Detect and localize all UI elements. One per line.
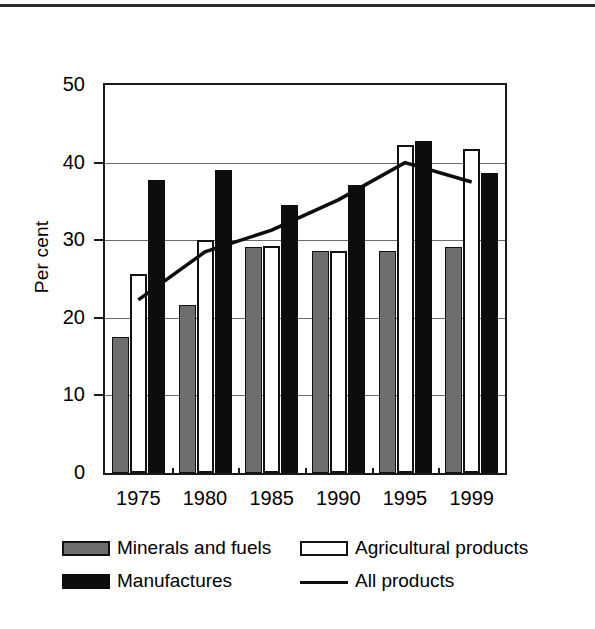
bar-1975-minerals-and-fuels: [112, 337, 129, 473]
bar-1995-manufactures: [415, 141, 432, 473]
bar-group-1975: [112, 85, 165, 473]
bar-1980-manufactures: [215, 170, 232, 473]
legend-label-agricultural-products: Agricultural products: [355, 538, 528, 558]
y-tick-mark-20: [94, 317, 103, 319]
bar-group-1990: [312, 85, 365, 473]
legend-label-minerals-and-fuels: Minerals and fuels: [117, 538, 271, 558]
legend-item-minerals-and-fuels: Minerals and fuels: [62, 535, 271, 561]
x-tick-mark-3: [305, 468, 307, 474]
y-tick-mark-30: [94, 239, 103, 241]
y-tick-label-50: 50: [25, 74, 85, 94]
bar-1995-agricultural-products: [397, 145, 414, 473]
bar-group-1995: [379, 85, 432, 473]
legend-label-all-products: All products: [355, 571, 454, 591]
x-tick-mark-1: [172, 468, 174, 474]
bar-group-1985: [245, 85, 298, 473]
x-tick-mark-5: [438, 468, 440, 474]
y-tick-label-40: 40: [25, 152, 85, 172]
bar-group-1980: [179, 85, 232, 473]
chart-figure: Per cent 01020304050 1975198019851990199…: [0, 0, 595, 629]
bar-1975-manufactures: [148, 180, 165, 473]
legend-item-all-products: All products: [300, 568, 454, 594]
x-tick-mark-4: [372, 468, 374, 474]
black-line-swatch-icon: [300, 574, 348, 589]
bar-1999-manufactures: [481, 173, 498, 473]
bar-1975-agricultural-products: [130, 274, 147, 473]
bar-group-1999: [445, 85, 498, 473]
y-tick-label-0: 0: [25, 462, 85, 482]
plot-inner: [105, 85, 505, 473]
legend-label-manufactures: Manufactures: [117, 571, 232, 591]
black-square-swatch-icon: [62, 574, 110, 589]
bar-1985-manufactures: [281, 205, 298, 473]
legend-item-agricultural-products: Agricultural products: [300, 535, 528, 561]
x-tick-label-1999: 1999: [432, 487, 512, 509]
legend-item-manufactures: Manufactures: [62, 568, 232, 594]
y-tick-mark-10: [94, 394, 103, 396]
y-tick-label-30: 30: [25, 229, 85, 249]
y-axis-title: Per cent: [31, 197, 53, 317]
y-tick-mark-40: [94, 162, 103, 164]
y-tick-label-20: 20: [25, 307, 85, 327]
bar-1990-agricultural-products: [330, 251, 347, 473]
bar-1990-minerals-and-fuels: [312, 251, 329, 473]
bar-1980-agricultural-products: [197, 240, 214, 473]
bar-1999-minerals-and-fuels: [445, 247, 462, 473]
bar-1980-minerals-and-fuels: [179, 305, 196, 473]
y-tick-label-10: 10: [25, 384, 85, 404]
bar-1985-minerals-and-fuels: [245, 247, 262, 473]
x-tick-mark-2: [238, 468, 240, 474]
gray-square-swatch-icon: [62, 541, 110, 556]
white-square-swatch-icon: [300, 541, 348, 556]
bar-1985-agricultural-products: [263, 246, 280, 473]
bar-1990-manufactures: [348, 185, 365, 473]
bar-1999-agricultural-products: [463, 149, 480, 473]
plot-area: [103, 83, 507, 475]
bar-1995-minerals-and-fuels: [379, 251, 396, 473]
chart-legend: Minerals and fuels Agricultural products…: [62, 535, 532, 605]
